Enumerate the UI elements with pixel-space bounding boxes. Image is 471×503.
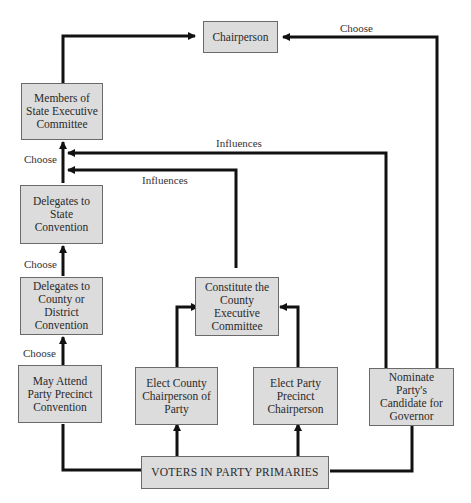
label-choose-state-conv: Choose	[24, 258, 57, 270]
node-voters: VOTERS IN PARTY PRIMARIES	[141, 456, 329, 489]
connector-lines	[0, 0, 471, 503]
node-chairperson: Chairperson	[203, 21, 278, 53]
label-choose-county-conv: Choose	[23, 347, 56, 359]
label-choose-chairperson: Choose	[340, 22, 373, 34]
node-state-executive-committee: Members of State Executive Committee	[21, 83, 103, 140]
node-county-executive-committee: Constitute the County Executive Committe…	[195, 277, 279, 336]
flowchart: Chairperson Members of State Executive C…	[0, 0, 471, 503]
label-choose-state-exec: Choose	[24, 153, 57, 165]
node-county-chairperson: Elect County Chairperson of Party	[135, 367, 218, 425]
node-county-convention-delegates: Delegates to County or District Conventi…	[20, 277, 103, 335]
node-precinct-convention: May Attend Party Precinct Convention	[18, 365, 102, 423]
label-influences-lower: Influences	[142, 174, 188, 186]
node-state-convention-delegates: Delegates to State Convention	[20, 185, 103, 244]
node-governor-nomination: Nominate Party's Candidate for Governor	[369, 368, 454, 426]
node-precinct-chairperson: Elect Party Precinct Chairperson	[253, 367, 338, 425]
label-influences-top: Influences	[216, 137, 262, 149]
